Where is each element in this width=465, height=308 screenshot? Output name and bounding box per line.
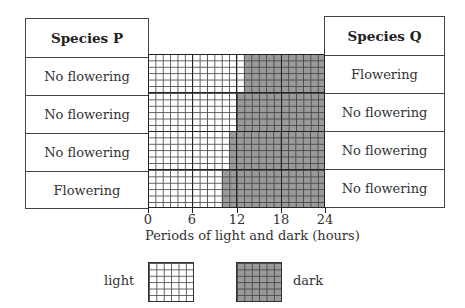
species-p-row-3: No flowering [26, 133, 148, 171]
species-q-row-4: No flowering [325, 169, 444, 207]
tick-label-6: 6 [188, 212, 196, 227]
legend-dark-label: dark [293, 273, 323, 288]
row-3-dark-period [229, 131, 325, 170]
grid-line-12h [236, 54, 237, 208]
species-p-row-1: No flowering [26, 57, 148, 95]
photoperiod-grid [148, 54, 325, 208]
x-axis-label: Periods of light and dark (hours) [145, 228, 360, 243]
legend-light-label: light [104, 273, 134, 288]
grid-line-6h [192, 54, 193, 208]
grid-line-18h [281, 54, 282, 208]
species-p-header: Species P [26, 19, 148, 57]
row-1-dark-period [244, 54, 325, 93]
species-q-row-2: No flowering [325, 93, 444, 131]
legend-dark-swatch [236, 262, 282, 302]
grid-line-24h [324, 54, 325, 208]
row-3-light-period [148, 131, 229, 170]
tick-label-18: 18 [273, 212, 290, 227]
species-q-row-3: No flowering [325, 131, 444, 169]
legend-light-swatch [148, 262, 194, 302]
row-4-light-period [148, 170, 222, 209]
species-q-row-1: Flowering [325, 55, 444, 93]
tick-label-0: 0 [144, 212, 152, 227]
row-1-light-period [148, 54, 244, 93]
row-4-dark-period [222, 170, 325, 209]
tick-label-12: 12 [229, 212, 246, 227]
species-q-table: Species Q Flowering No flowering No flow… [324, 16, 445, 208]
species-p-table: Species P No flowering No flowering No f… [25, 18, 149, 209]
grid-line-0h [148, 54, 149, 208]
tick-label-24: 24 [317, 212, 334, 227]
species-p-row-2: No flowering [26, 95, 148, 133]
species-p-row-4: Flowering [26, 171, 148, 209]
species-q-header: Species Q [325, 17, 444, 55]
